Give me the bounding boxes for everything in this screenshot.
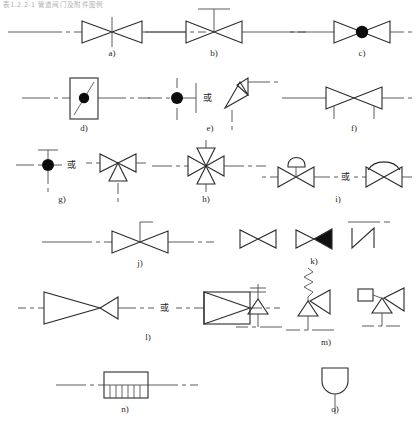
caption-g: g) [42,194,82,204]
symbol-j-valve-with-l-shaped-stem [42,222,214,253]
symbol-h-four-way-valve [152,140,266,192]
or-label-e: 或 [203,91,212,104]
symbol-n-strainer-filter [56,372,198,398]
symbol-k-variant-1-open-bowtie [240,230,276,248]
caption-n: n) [105,404,145,414]
caption-k: k) [294,256,334,266]
pilot-box [358,289,373,301]
or-label-g: 或 [67,158,76,171]
or-label-i: 或 [341,170,350,183]
diaphragm-head [288,158,305,167]
symbol-k-variant-2-half-solid-bowtie [296,229,332,249]
caption-m: m) [306,337,346,347]
symbol-b-gate-valve-with-handwheel-stem [145,9,306,43]
caption-f: f) [334,123,374,133]
symbol-i-variant-1-diaphragm-valve [262,158,338,187]
symbol-c-valve-with-solid-circle-center [286,21,412,43]
plug-dot [171,92,183,104]
caption-e: e) [190,123,230,133]
caption-o: o) [315,404,355,414]
caption-d: d) [64,123,104,133]
caption-j: j) [120,258,160,268]
or-label-l: 或 [160,301,169,314]
caption-l: l) [128,332,168,342]
caption-a: a) [92,48,132,58]
caption-i: i) [318,194,358,204]
symbol-m-variant-3-pilot-safety-valve [358,288,404,326]
symbol-g-variant-2-three-way-valve [86,154,146,202]
valve-center-dot [356,26,368,38]
caption-h: h) [186,194,226,204]
symbol-m-variant-2-spring-safety-valve [286,268,334,330]
valve-disc-dot [79,93,89,103]
symbol-k-variant-3-z-shape [348,222,390,248]
symbol-e-variant-2-angle-valve [225,78,278,130]
caption-b: b) [194,48,234,58]
symbol-legend-sheet: 表1.2.2-1 管道阀门及附件图例 [0,0,416,428]
symbols-canvas [0,0,416,428]
symbol-g-variant-1-tee-stem-dot [16,150,62,192]
symbol-d-rectangular-body-valve-with-disc [22,78,150,119]
symbol-e-variant-1-plug-stop [148,78,196,120]
plug-dot [42,159,54,171]
symbol-i-variant-2-arc-valve [354,162,412,187]
symbol-f-valve-with-two-down-legs [282,87,412,119]
caption-c: c) [342,48,382,58]
strainer-mesh-lines [110,385,140,398]
symbol-l-variant-1-check-valve [18,292,154,324]
